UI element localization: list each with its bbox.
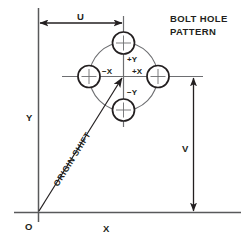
dimension-u-label: U [77, 11, 84, 22]
dimension-v-label: V [182, 143, 189, 154]
bolt-hole-pattern-diagram: BOLT HOLE PATTERN U V Y X O +Y −Y +X −X … [0, 0, 247, 243]
y-axis-label: Y [26, 112, 33, 123]
bolt-hole-right [147, 66, 169, 88]
x-axis-label: X [103, 223, 110, 234]
title-line-1: BOLT HOLE [170, 13, 228, 24]
quadrant-plus-x-label: +X [132, 67, 143, 76]
title-line-2: PATTERN [170, 26, 216, 37]
quadrant-minus-y-label: −Y [127, 88, 138, 97]
bolt-hole-left [78, 66, 100, 88]
bolt-hole-top [113, 32, 135, 54]
bolt-hole-bottom [113, 99, 135, 121]
quadrant-plus-y-label: +Y [127, 55, 138, 64]
origin-shift-label: ORIGIN SHIFT [51, 130, 93, 188]
origin-label: O [25, 221, 32, 232]
diagram-canvas: BOLT HOLE PATTERN U V Y X O +Y −Y +X −X … [0, 0, 247, 243]
quadrant-minus-x-label: −X [102, 67, 113, 76]
